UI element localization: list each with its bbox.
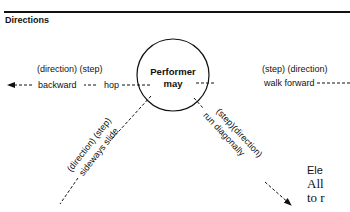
center-label-line1: Performer	[150, 66, 196, 77]
left-word-hop: hop	[104, 80, 119, 90]
right-line-label: walk forward	[263, 78, 315, 88]
left-top-label: (direction) (step)	[37, 64, 103, 74]
branch-lower-left: (direction) (step) sideways slide	[60, 96, 151, 204]
right-top-label: (step) (direction)	[262, 64, 328, 74]
side-text-block: Ele All to r	[307, 163, 325, 205]
branch-right: (step) (direction) walk forward	[196, 64, 350, 88]
branch-lower-right: (step)(direction) run diagonally	[194, 98, 291, 205]
branch-left: (direction) (step) backward hop	[8, 64, 150, 90]
side-line-2: to r	[307, 191, 325, 205]
side-line-1: All	[307, 177, 325, 191]
center-label-line2: may	[163, 78, 183, 89]
directions-diagram: Performer may (direction) (step) backwar…	[0, 0, 350, 212]
side-heading: Ele	[307, 163, 325, 177]
left-word-backward: backward	[38, 80, 77, 90]
